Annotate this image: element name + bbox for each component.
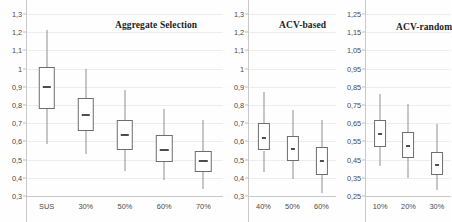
box-plot <box>145 0 184 222</box>
median-line <box>435 164 439 166</box>
median-line <box>319 160 323 162</box>
upper-whisker <box>408 104 409 132</box>
lower-whisker <box>124 150 125 171</box>
median-line <box>290 148 294 150</box>
x-axis-tick-label: 40% <box>256 202 271 211</box>
y-axis-tick-label: 1 <box>240 64 244 73</box>
lower-whisker <box>263 151 264 173</box>
box-plot <box>66 0 105 222</box>
upper-whisker <box>321 120 322 146</box>
y-axis-tick-label: 1,3 <box>12 10 22 19</box>
y-axis-tick-label: 0,85 <box>347 82 361 91</box>
y-axis-tick-label: 0,55 <box>347 137 361 146</box>
y-axis-tick-label: 1,2 <box>234 28 244 37</box>
y-axis-tick-label: 0,65 <box>347 119 361 128</box>
lower-whisker <box>436 175 437 190</box>
median-line <box>160 149 168 151</box>
plot-area: ACV-random10%20%30% <box>365 0 451 222</box>
lower-whisker <box>203 172 204 188</box>
lower-whisker <box>292 161 293 178</box>
median-line <box>42 86 50 88</box>
y-axis-tick-label: 0,75 <box>347 101 361 110</box>
lower-whisker <box>46 109 47 144</box>
y-axis-tick-label: 0,6 <box>234 137 244 146</box>
box-plot <box>307 0 336 222</box>
chart-panel-3: 1,251,151,050,950,850,750,650,550,450,35… <box>335 0 450 222</box>
box-plot <box>423 0 451 222</box>
box-plot <box>184 0 223 222</box>
y-axis-tick-label: 0,5 <box>12 155 22 164</box>
upper-whisker <box>380 94 381 120</box>
upper-whisker <box>436 124 437 152</box>
box-iqr <box>195 151 211 172</box>
y-axis-tick-label: 0,4 <box>12 173 22 182</box>
median-line <box>261 137 265 139</box>
upper-whisker <box>85 69 86 98</box>
upper-whisker <box>46 30 47 66</box>
x-axis-tick-label: 50% <box>285 202 300 211</box>
y-axis-tick-label: 0,4 <box>234 173 244 182</box>
chart-panel-1: 1,31,21,110,90,80,70,60,50,40,3Aggregate… <box>0 0 222 222</box>
x-axis-tick-label: 60% <box>314 202 329 211</box>
y-axis-tick-label: 1,25 <box>347 10 361 19</box>
y-axis-tick-label: 1,1 <box>234 46 244 55</box>
plot-area: Aggregate SelectionSUS30%50%60%70% <box>26 0 223 222</box>
median-line <box>199 160 207 162</box>
upper-whisker <box>292 110 293 135</box>
y-axis-tick-label: 0,9 <box>234 82 244 91</box>
x-axis-tick-label: 30% <box>78 202 93 211</box>
box-plot <box>366 0 394 222</box>
upper-whisker <box>164 109 165 135</box>
x-axis-tick-label: 60% <box>157 202 172 211</box>
y-axis-tick-label: 1,1 <box>12 46 22 55</box>
box-plot <box>394 0 422 222</box>
box-plot <box>278 0 307 222</box>
y-axis-tick-label: 0,7 <box>12 119 22 128</box>
y-axis-tick-label: 0,8 <box>12 101 22 110</box>
plot-area: ACV-based40%50%60% <box>248 0 336 222</box>
lower-whisker <box>321 175 322 193</box>
y-axis-tick-label: 0,25 <box>347 192 361 201</box>
upper-whisker <box>263 92 264 123</box>
y-axis-tick-label: 0,6 <box>12 137 22 146</box>
box-plot <box>105 0 144 222</box>
y-axis-tick-label: 0,7 <box>234 119 244 128</box>
chart-panel-2: 1,31,21,110,90,80,70,60,50,40,3ACV-based… <box>222 0 335 222</box>
box-plot <box>249 0 278 222</box>
y-axis-tick-label: 0,3 <box>12 192 22 201</box>
y-axis-tick-label: 0,9 <box>12 82 22 91</box>
median-line <box>378 133 382 135</box>
x-axis-tick-label: 10% <box>373 202 388 211</box>
lower-whisker <box>85 131 86 154</box>
lower-whisker <box>408 158 409 178</box>
y-axis-tick-label: 1,2 <box>12 28 22 37</box>
x-axis-tick-label: SUS <box>39 202 54 211</box>
y-axis-tick-label: 1 <box>18 64 22 73</box>
y-axis-tick-label: 0,8 <box>234 101 244 110</box>
y-axis-tick-label: 0,5 <box>234 155 244 164</box>
upper-whisker <box>124 90 125 121</box>
box-plot <box>27 0 66 222</box>
upper-whisker <box>203 120 204 152</box>
lower-whisker <box>164 162 165 179</box>
median-line <box>121 134 129 136</box>
x-axis-tick-label: 70% <box>196 202 211 211</box>
x-axis-tick-label: 20% <box>401 202 416 211</box>
y-axis-tick-label: 1,3 <box>234 10 244 19</box>
y-axis-tick-label: 0,3 <box>234 192 244 201</box>
y-axis-tick-label: 0,95 <box>347 64 361 73</box>
y-axis-tick-label: 0,35 <box>347 173 361 182</box>
y-axis-tick-label: 1,05 <box>347 46 361 55</box>
x-axis-tick-label: 50% <box>118 202 133 211</box>
median-line <box>407 145 411 147</box>
y-axis-tick-label: 1,15 <box>347 28 361 37</box>
lower-whisker <box>380 147 381 166</box>
median-line <box>82 114 90 116</box>
y-axis-tick-label: 0,45 <box>347 155 361 164</box>
x-axis-tick-label: 30% <box>429 202 444 211</box>
